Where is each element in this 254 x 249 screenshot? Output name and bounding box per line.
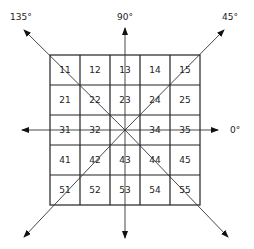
cell-42: 42 xyxy=(89,155,100,165)
label-90deg: 90° xyxy=(117,12,133,22)
cell-43: 43 xyxy=(119,155,130,165)
cell-44: 44 xyxy=(149,155,161,165)
cell-45: 45 xyxy=(179,155,190,165)
direction-arrows xyxy=(22,28,228,238)
label-0deg: 0° xyxy=(230,125,240,135)
cell-12: 12 xyxy=(89,65,100,75)
cell-15: 15 xyxy=(179,65,190,75)
cell-31: 31 xyxy=(59,125,70,135)
cell-41: 41 xyxy=(59,155,70,165)
cell-14: 14 xyxy=(149,65,161,75)
cell-21: 21 xyxy=(59,95,70,105)
cell-52: 52 xyxy=(89,185,100,195)
cell-51: 51 xyxy=(59,185,70,195)
cell-23: 23 xyxy=(119,95,130,105)
cell-55: 55 xyxy=(179,185,190,195)
cell-24: 24 xyxy=(149,95,161,105)
cell-35: 35 xyxy=(179,125,190,135)
cell-11: 11 xyxy=(59,65,70,75)
cell-13: 13 xyxy=(119,65,130,75)
cell-25: 25 xyxy=(179,95,190,105)
cell-53: 53 xyxy=(119,185,130,195)
cell-54: 54 xyxy=(149,185,161,195)
cell-22: 22 xyxy=(89,95,100,105)
label-135deg: 135° xyxy=(10,12,32,22)
label-45deg: 45° xyxy=(222,12,238,22)
grid-direction-diagram: 11 12 13 14 15 21 22 23 24 25 31 32 34 3… xyxy=(0,0,254,249)
cell-34: 34 xyxy=(149,125,161,135)
cell-32: 32 xyxy=(89,125,100,135)
